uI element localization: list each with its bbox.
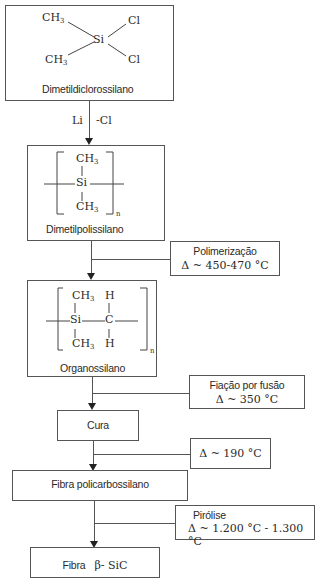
node-label: Fibra bbox=[63, 559, 86, 571]
arrow-head-icon bbox=[87, 273, 95, 280]
ch3-bottom: CH3 bbox=[72, 337, 94, 351]
connector-fibra-sic bbox=[94, 500, 95, 541]
connector-1-2 bbox=[89, 100, 90, 138]
node-label-wrap: Fibra β- SiC bbox=[31, 555, 159, 573]
node-dimetilpolissilano: CH3 Si CH3 n Dimetilpolissilano bbox=[27, 145, 165, 241]
node-fibra-sic: Fibra β- SiC bbox=[30, 547, 160, 578]
condition-temp: Δ ~ 350 °C bbox=[190, 393, 304, 406]
branch-190 bbox=[93, 454, 191, 455]
node-label: Dimetildiclorossilano bbox=[42, 83, 134, 95]
ch3-top: CH3 bbox=[72, 289, 94, 303]
node-dimetildiclorossilano: CH3 CH3 Si Cl Cl Dimetildiclorossilano bbox=[5, 5, 174, 101]
condition-step: Fiação por fusão bbox=[190, 379, 304, 391]
condition-fiacao: Fiação por fusão Δ ~ 350 °C bbox=[189, 375, 305, 409]
ch3-top: CH3 bbox=[42, 11, 64, 25]
reagent-cl: -Cl bbox=[96, 114, 112, 127]
condition-temp: Δ ~ 450-470 °C bbox=[171, 259, 279, 272]
node-label: Fibra policarbossilano bbox=[13, 478, 187, 490]
cl-bottom: Cl bbox=[128, 53, 140, 66]
arrow-head-icon bbox=[88, 403, 96, 410]
node-symbol: β- SiC bbox=[94, 559, 127, 572]
ch3-bottom: CH3 bbox=[45, 53, 67, 67]
connector-3-cura bbox=[92, 376, 93, 403]
c-atom: C bbox=[105, 313, 113, 326]
repeat-n: n bbox=[150, 347, 155, 355]
ch3-top: CH3 bbox=[76, 152, 98, 166]
node-fibra-policarbossilano: Fibra policarbossilano bbox=[12, 470, 188, 501]
si-atom: Si bbox=[76, 176, 87, 189]
si-atom: Si bbox=[93, 33, 104, 46]
branch-polimerizacao bbox=[91, 259, 171, 260]
reagent-li: Li bbox=[72, 114, 83, 127]
condition-step: Polimerização bbox=[171, 245, 279, 257]
arrow-head-icon bbox=[85, 138, 93, 145]
repeat-n: n bbox=[116, 210, 121, 218]
condition-pirolise: Pirólise Δ ~ 1.200 °C - 1.300 °C bbox=[175, 505, 315, 540]
si-atom: Si bbox=[70, 313, 81, 326]
condition-temp: Δ ~ 190 °C bbox=[191, 447, 270, 460]
condition-polimerizacao: Polimerização Δ ~ 450-470 °C bbox=[170, 241, 280, 276]
condition-190: Δ ~ 190 °C bbox=[190, 438, 271, 469]
connector-2-3 bbox=[91, 240, 92, 273]
branch-fiacao bbox=[92, 393, 190, 394]
condition-step: Pirólise bbox=[193, 509, 314, 521]
node-cura: Cura bbox=[57, 410, 139, 441]
condition-temp: Δ ~ 1.200 °C - 1.300 °C bbox=[188, 522, 314, 548]
h-top: H bbox=[105, 289, 115, 302]
node-label: Cura bbox=[58, 419, 138, 431]
node-label: Organossilano bbox=[60, 362, 125, 374]
h-bottom: H bbox=[105, 337, 115, 350]
ch3-bottom: CH3 bbox=[76, 200, 98, 214]
node-organossilano: CH3 Si CH3 H C H n Organossilano bbox=[27, 280, 157, 377]
connector-cura-fibra bbox=[93, 440, 94, 464]
cl-top: Cl bbox=[128, 14, 140, 27]
branch-pirolise bbox=[94, 523, 176, 524]
node-label: Dimetilpolissilano bbox=[46, 223, 124, 235]
